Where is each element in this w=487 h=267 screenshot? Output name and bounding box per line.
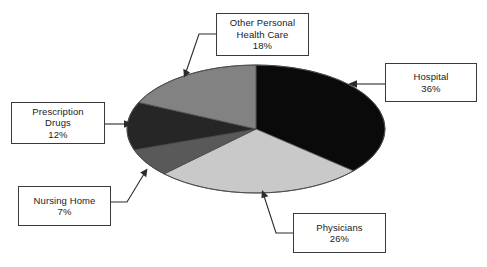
callout-physicians-value: 26% — [330, 233, 349, 245]
leader-line-other — [186, 34, 216, 72]
callout-hospital[interactable]: Hospital 36% — [385, 63, 477, 102]
callout-physicians-label: Physicians — [316, 222, 362, 234]
callout-nursing-home[interactable]: Nursing Home 7% — [18, 186, 111, 226]
leader-line-nursing-home — [111, 174, 144, 202]
callout-other-value: 18% — [253, 40, 272, 52]
pie-slices — [127, 65, 385, 193]
callout-nursing-home-label: Nursing Home — [34, 195, 96, 207]
callout-other-label: Other Personal Health Care — [230, 17, 295, 40]
callout-hospital-label: Hospital — [413, 71, 448, 83]
callout-prescription-drugs-label: Prescription Drugs — [32, 106, 83, 129]
callout-nursing-home-value: 7% — [58, 206, 72, 218]
callout-prescription-drugs-value: 12% — [48, 129, 67, 141]
callout-prescription-drugs[interactable]: Prescription Drugs 12% — [11, 102, 105, 144]
arrowhead-nursing-home — [140, 169, 147, 178]
callout-physicians[interactable]: Physicians 26% — [293, 213, 386, 253]
pie-chart-figure: Other Personal Health Care 18% Hospital … — [0, 0, 487, 267]
callout-hospital-value: 36% — [421, 83, 440, 95]
leader-line-physicians — [264, 196, 293, 233]
callout-other-personal-health-care[interactable]: Other Personal Health Care 18% — [216, 13, 309, 56]
